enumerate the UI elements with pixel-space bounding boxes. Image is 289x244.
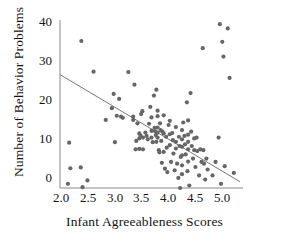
data-point: [186, 140, 190, 144]
data-point: [149, 129, 153, 133]
data-point: [175, 162, 179, 166]
data-point: [113, 140, 117, 144]
data-point: [185, 100, 189, 104]
data-point: [132, 83, 136, 87]
data-point: [79, 39, 83, 43]
data-point: [154, 140, 158, 144]
data-point: [197, 173, 201, 177]
data-point: [149, 115, 153, 119]
data-points-group: [66, 22, 236, 190]
data-point: [186, 133, 190, 137]
data-point: [160, 161, 164, 165]
data-point: [191, 157, 195, 161]
data-point: [67, 141, 71, 145]
data-point: [162, 113, 166, 117]
data-point: [201, 46, 205, 50]
data-point: [170, 131, 174, 135]
data-point: [219, 182, 223, 186]
data-point: [146, 137, 150, 141]
data-point: [186, 159, 190, 163]
data-point: [184, 152, 188, 156]
data-point: [149, 136, 153, 140]
data-point: [141, 136, 145, 140]
data-point: [121, 116, 125, 120]
data-point: [232, 171, 236, 175]
data-point: [178, 186, 182, 190]
plot-canvas: [0, 0, 289, 244]
data-point: [180, 128, 184, 132]
data-point: [185, 169, 189, 173]
data-point: [156, 109, 160, 113]
data-point: [227, 76, 231, 80]
data-point: [223, 164, 227, 168]
data-point: [210, 173, 214, 177]
data-point: [79, 165, 83, 169]
data-point: [174, 140, 178, 144]
data-point: [190, 144, 194, 148]
data-point: [141, 147, 145, 151]
data-point: [162, 150, 166, 154]
data-point: [220, 40, 224, 44]
data-point: [157, 150, 161, 154]
data-point: [189, 130, 193, 134]
data-point: [195, 136, 199, 140]
data-point: [80, 185, 84, 189]
data-point: [117, 97, 121, 101]
data-point: [152, 94, 156, 98]
data-point: [174, 125, 178, 129]
data-point: [174, 146, 178, 150]
data-point: [168, 119, 172, 123]
data-point: [180, 163, 184, 167]
data-point: [168, 143, 172, 147]
data-point: [104, 118, 108, 122]
data-point: [148, 105, 152, 109]
data-point: [159, 139, 163, 143]
data-point: [204, 157, 208, 161]
scatter-plot-figure: Number of Behavior Problems Infant Agree…: [0, 0, 289, 244]
data-point: [201, 148, 205, 152]
data-point: [140, 109, 144, 113]
data-point: [193, 165, 197, 169]
data-point: [202, 162, 206, 166]
data-point: [221, 54, 225, 58]
data-point: [226, 26, 230, 30]
regression-line: [60, 75, 240, 182]
data-point: [135, 121, 139, 125]
data-point: [217, 136, 221, 140]
data-point: [137, 147, 141, 151]
data-point: [126, 70, 130, 74]
data-point: [188, 91, 192, 95]
data-point: [186, 147, 190, 151]
data-point: [85, 178, 89, 182]
data-point: [181, 120, 185, 124]
data-point: [156, 136, 160, 140]
data-point: [176, 176, 180, 180]
data-point: [154, 88, 158, 92]
data-point: [171, 151, 175, 155]
data-point: [166, 123, 170, 127]
data-point: [115, 114, 119, 118]
data-point: [151, 140, 155, 144]
data-point: [131, 118, 135, 122]
data-point: [91, 70, 95, 74]
data-point: [180, 153, 184, 157]
data-point: [187, 183, 191, 187]
data-point: [218, 22, 222, 26]
data-point: [180, 172, 184, 176]
data-point: [112, 92, 116, 96]
data-point: [203, 178, 207, 182]
data-point: [68, 166, 72, 170]
data-point: [213, 160, 217, 164]
data-point: [173, 168, 177, 172]
data-point: [110, 106, 114, 110]
data-point: [162, 131, 166, 135]
data-point: [165, 170, 169, 174]
data-point: [206, 167, 210, 171]
data-point: [180, 137, 184, 141]
data-point: [182, 134, 186, 138]
data-point: [186, 118, 190, 122]
data-point: [158, 121, 162, 125]
data-point: [66, 182, 70, 186]
data-point: [156, 114, 160, 118]
data-point: [169, 160, 173, 164]
